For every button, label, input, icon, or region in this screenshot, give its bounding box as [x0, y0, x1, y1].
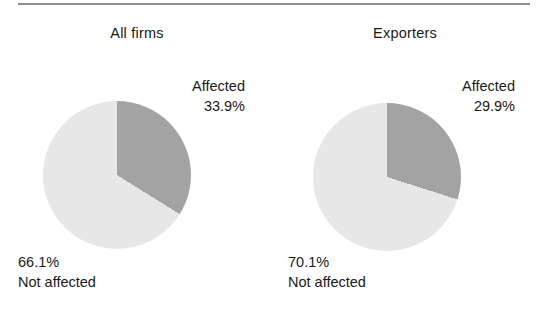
panel-title-exporters: Exporters	[340, 25, 470, 41]
callout-not-affected-all-firms: 66.1% Not affected	[18, 252, 198, 292]
pie-exporters	[313, 103, 461, 251]
callout-not-affected-exporters-value: 70.1%	[288, 252, 468, 272]
pie-chart-figure: All firms Affected 33.9% 66.1% Not affec…	[0, 0, 546, 319]
panel-title-all-firms: All firms	[72, 25, 202, 41]
callout-affected-exporters-label: Affected	[383, 76, 515, 96]
callout-affected-all-firms: Affected 33.9%	[113, 76, 245, 116]
callout-affected-all-firms-value: 33.9%	[113, 96, 245, 116]
callout-not-affected-all-firms-label: Not affected	[18, 272, 198, 292]
top-rule-divider	[18, 3, 530, 5]
pie-all-firms	[43, 101, 191, 249]
callout-affected-exporters-value: 29.9%	[383, 96, 515, 116]
callout-not-affected-exporters-label: Not affected	[288, 272, 468, 292]
callout-affected-all-firms-label: Affected	[113, 76, 245, 96]
callout-affected-exporters: Affected 29.9%	[383, 76, 515, 116]
callout-not-affected-all-firms-value: 66.1%	[18, 252, 198, 272]
callout-not-affected-exporters: 70.1% Not affected	[288, 252, 468, 292]
